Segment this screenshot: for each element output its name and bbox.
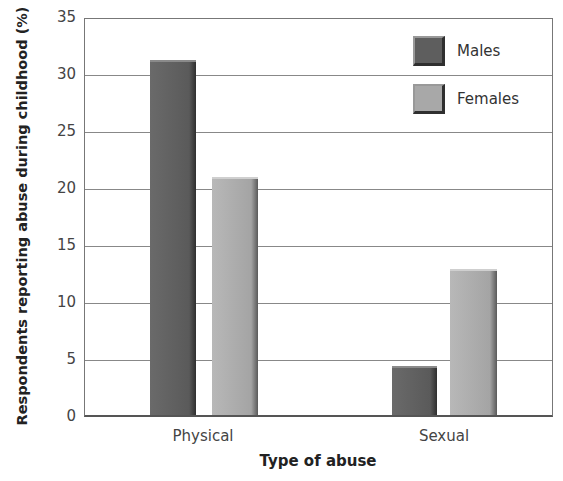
bar-sexual-females xyxy=(450,269,497,415)
x-axis-label: Type of abuse xyxy=(259,452,376,470)
bar-sexual-males xyxy=(392,366,437,415)
y-tick-20: 20 xyxy=(44,179,76,197)
y-tick-0: 0 xyxy=(44,407,76,425)
y-axis-label: Respondents reporting abuse during child… xyxy=(14,7,30,426)
plot-area xyxy=(84,18,553,417)
y-tick-30: 30 xyxy=(44,65,76,83)
x-tick-sexual: Sexual xyxy=(419,427,469,445)
legend-item-females: Females xyxy=(413,84,519,114)
legend-label-females: Females xyxy=(457,90,519,108)
legend-swatch-males xyxy=(413,36,445,66)
y-tick-35: 35 xyxy=(44,8,76,26)
bar-physical-females xyxy=(212,177,258,415)
y-tick-10: 10 xyxy=(44,293,76,311)
legend-swatch-females xyxy=(413,84,445,114)
y-tick-25: 25 xyxy=(44,122,76,140)
bar-physical-males xyxy=(150,60,196,415)
legend-label-males: Males xyxy=(457,42,500,60)
x-tick-physical: Physical xyxy=(172,427,233,445)
y-tick-15: 15 xyxy=(44,236,76,254)
y-tick-5: 5 xyxy=(44,350,76,368)
legend-item-males: Males xyxy=(413,36,500,66)
